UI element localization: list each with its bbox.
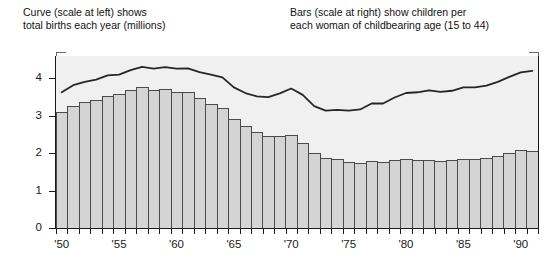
x-axis-tick (159, 229, 160, 234)
x-axis-tick (469, 229, 470, 234)
plot-right-edge (538, 56, 539, 229)
x-axis-tick (194, 229, 195, 234)
y-axis-tick-label: 3 (14, 110, 42, 121)
x-axis-tick (389, 229, 390, 234)
y-axis-line (55, 56, 56, 229)
x-axis-tick (171, 229, 172, 234)
x-axis-tick (515, 229, 516, 234)
x-axis-tick (228, 229, 229, 234)
x-axis-tick (182, 229, 183, 234)
bar-series (56, 56, 538, 228)
x-axis-tick (492, 229, 493, 234)
x-axis-tick (251, 229, 252, 234)
x-axis-tick (377, 229, 378, 234)
x-axis-tick (217, 229, 218, 234)
legend-caption-curve: Curve (scale at left) shows total births… (23, 6, 273, 32)
x-axis-tick (286, 229, 287, 234)
x-axis-tick (320, 229, 321, 234)
x-axis-tick (125, 229, 126, 234)
x-axis-tick-label: '60 (157, 238, 197, 250)
x-axis-tick (366, 229, 367, 234)
x-axis-tick (308, 229, 309, 234)
x-axis-tick (504, 229, 505, 234)
y-axis-tick (49, 153, 56, 154)
x-axis-tick (205, 229, 206, 234)
y-axis-tick (49, 228, 56, 229)
x-axis-tick (343, 229, 344, 234)
x-axis-tick (400, 229, 401, 234)
y-axis-tick (49, 191, 56, 192)
x-axis-tick (481, 229, 482, 234)
x-axis-tick-label: '85 (443, 238, 483, 250)
legend-caption-bars: Bars (scale at right) show children per … (290, 6, 542, 32)
x-axis-tick (240, 229, 241, 234)
x-axis-tick (90, 229, 91, 234)
y-axis-tick-label: 0 (14, 222, 42, 233)
x-axis-tick (538, 229, 539, 234)
x-axis-tick (102, 229, 103, 234)
x-axis-tick (527, 229, 528, 234)
x-axis-tick (458, 229, 459, 234)
x-axis-tick-label: '65 (214, 238, 254, 250)
x-axis-tick (331, 229, 332, 234)
x-axis-tick (263, 229, 264, 234)
x-axis-tick (79, 229, 80, 234)
bar (526, 151, 538, 228)
x-axis-tick (354, 229, 355, 234)
x-axis-tick (56, 229, 57, 234)
x-axis-tick-label: '80 (386, 238, 426, 250)
x-axis-tick-label: '50 (42, 238, 82, 250)
x-axis-tick-label: '55 (99, 238, 139, 250)
x-axis-tick (446, 229, 447, 234)
x-axis-tick-label: '75 (329, 238, 369, 250)
y-axis-tick (49, 116, 56, 117)
y-axis-tick-label: 1 (14, 185, 42, 196)
y-axis-tick-label: 4 (14, 72, 42, 83)
x-axis-tick (148, 229, 149, 234)
y-axis-tick-label: 2 (14, 147, 42, 158)
x-axis-tick (113, 229, 114, 234)
x-axis-tick (412, 229, 413, 234)
x-axis-tick-label: '70 (271, 238, 311, 250)
births-fertility-chart: Curve (scale at left) shows total births… (0, 0, 547, 262)
x-axis-tick-label: '90 (501, 238, 541, 250)
x-axis-tick (274, 229, 275, 234)
y-axis-tick (49, 78, 56, 79)
plot-area (56, 56, 538, 228)
x-axis-tick (67, 229, 68, 234)
x-axis-tick (423, 229, 424, 234)
x-axis-tick (435, 229, 436, 234)
x-axis-tick (297, 229, 298, 234)
x-axis-tick (136, 229, 137, 234)
